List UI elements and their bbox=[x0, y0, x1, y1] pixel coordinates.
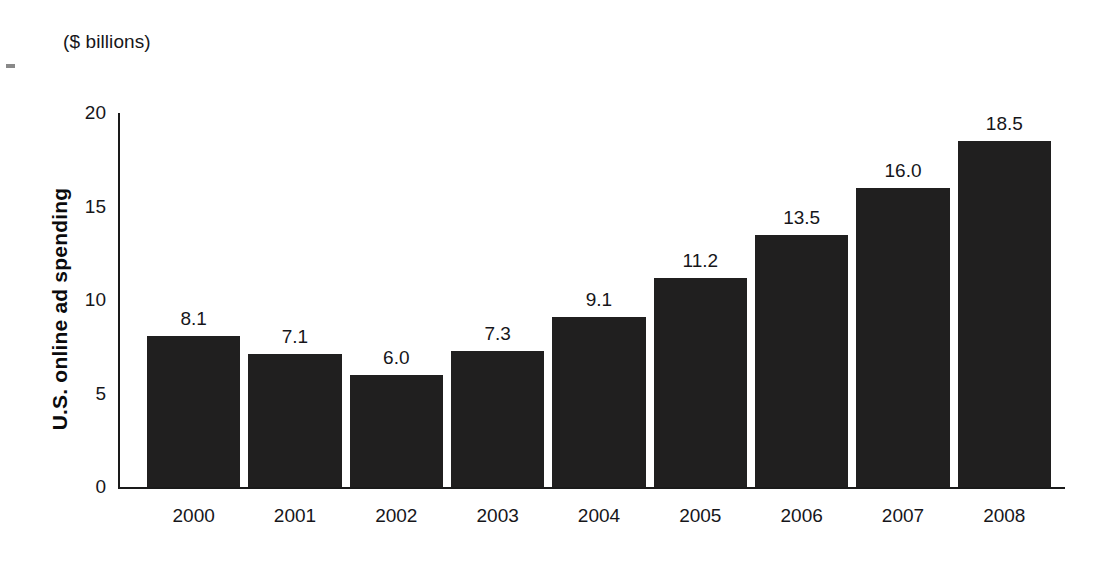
bar-value-label: 8.1 bbox=[180, 308, 206, 330]
y-tick-label: 0 bbox=[95, 476, 106, 498]
bar bbox=[350, 375, 443, 487]
x-tick-label: 2003 bbox=[477, 505, 519, 527]
bar bbox=[958, 141, 1051, 487]
bar-group: 9.12004 bbox=[552, 113, 645, 487]
bar bbox=[856, 188, 949, 487]
x-tick-label: 2002 bbox=[375, 505, 417, 527]
y-axis-title: U.S. online ad spending bbox=[48, 149, 72, 469]
bar-value-label: 18.5 bbox=[986, 113, 1023, 135]
bar bbox=[248, 354, 341, 487]
plot-area: 05101520 8.120007.120016.020027.320039.1… bbox=[118, 113, 1065, 487]
bar bbox=[451, 351, 544, 488]
bar bbox=[755, 235, 848, 487]
bar-group: 16.02007 bbox=[856, 113, 949, 487]
x-tick-label: 2000 bbox=[173, 505, 215, 527]
bar-group: 7.32003 bbox=[451, 113, 544, 487]
bar-value-label: 7.3 bbox=[484, 323, 510, 345]
bar-group: 13.52006 bbox=[755, 113, 848, 487]
y-tick-label: 15 bbox=[85, 196, 106, 218]
bar-value-label: 9.1 bbox=[586, 289, 612, 311]
bar-group: 18.52008 bbox=[958, 113, 1051, 487]
y-axis-unit-caption: ($ billions) bbox=[63, 31, 151, 53]
x-tick-label: 2007 bbox=[882, 505, 924, 527]
bar-group: 8.12000 bbox=[147, 113, 240, 487]
bar-value-label: 11.2 bbox=[683, 250, 719, 272]
bar-group: 11.22005 bbox=[654, 113, 747, 487]
bar-value-label: 16.0 bbox=[884, 160, 921, 182]
y-tick-label: 5 bbox=[95, 383, 106, 405]
x-axis-line bbox=[118, 487, 1065, 489]
bar bbox=[552, 317, 645, 487]
bar-chart-figure: ($ billions) U.S. online ad spending 051… bbox=[0, 0, 1095, 563]
bar-value-label: 7.1 bbox=[282, 326, 308, 348]
bar-group: 7.12001 bbox=[248, 113, 341, 487]
x-tick-label: 2004 bbox=[578, 505, 620, 527]
bar-value-label: 13.5 bbox=[783, 207, 820, 229]
y-tick-label: 20 bbox=[85, 102, 106, 124]
scan-artifact-mark bbox=[6, 64, 15, 68]
bar bbox=[147, 336, 240, 487]
bar-group: 6.02002 bbox=[350, 113, 443, 487]
bar-value-label: 6.0 bbox=[383, 347, 409, 369]
x-tick-label: 2005 bbox=[679, 505, 721, 527]
bar-series-group: 8.120007.120016.020027.320039.1200411.22… bbox=[118, 113, 1065, 487]
x-tick-label: 2006 bbox=[781, 505, 823, 527]
bar bbox=[654, 278, 747, 487]
x-tick-label: 2008 bbox=[983, 505, 1025, 527]
y-tick-label: 10 bbox=[85, 289, 106, 311]
x-tick-label: 2001 bbox=[274, 505, 316, 527]
